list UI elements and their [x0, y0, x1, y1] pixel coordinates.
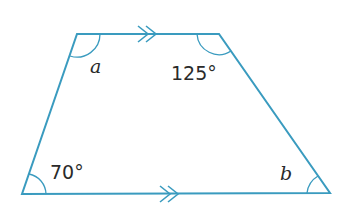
angle-label-70: 70°	[50, 161, 84, 183]
angle-label-a: a	[90, 55, 101, 77]
angle-arc-top-left	[70, 34, 100, 57]
trapezium-diagram: a 125° 70° b	[0, 0, 350, 222]
angle-arc-bottom-right	[307, 176, 318, 193]
angle-label-125: 125°	[171, 62, 217, 84]
angle-arc-bottom-left	[29, 174, 46, 194]
angle-label-b: b	[280, 162, 292, 184]
